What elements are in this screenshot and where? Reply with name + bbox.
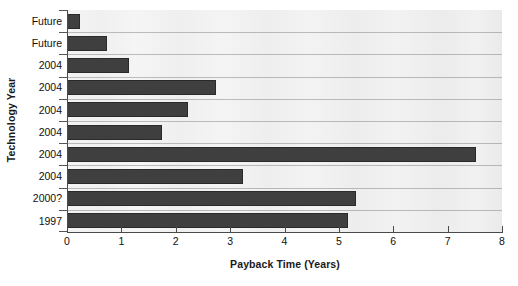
x-tick-label: 6 <box>390 235 396 248</box>
bar-row <box>67 121 502 143</box>
bar[interactable] <box>67 58 129 73</box>
x-axis-title: Payback Time (Years) <box>67 258 503 270</box>
y-tick <box>59 32 68 33</box>
y-tick <box>59 210 68 211</box>
bar-row <box>67 54 502 76</box>
bar-chart: Technology Year FutureFuture200420042004… <box>0 0 518 286</box>
bar[interactable] <box>67 191 356 206</box>
y-axis-title-text: Technology Year <box>5 78 17 163</box>
x-tick-label: 7 <box>445 235 451 248</box>
bar-row <box>67 165 502 187</box>
y-axis-ticks <box>59 10 68 232</box>
x-tick <box>285 226 286 232</box>
bar[interactable] <box>67 36 107 51</box>
bar-row <box>67 10 502 32</box>
y-tick <box>59 165 68 166</box>
x-tick-label: 3 <box>227 235 233 248</box>
x-axis-ticks <box>67 226 503 232</box>
bar[interactable] <box>67 102 188 117</box>
bar[interactable] <box>67 147 476 162</box>
bar[interactable] <box>67 125 162 140</box>
y-tick <box>59 54 68 55</box>
x-tick <box>448 226 449 232</box>
x-tick <box>339 226 340 232</box>
y-tick <box>59 10 68 11</box>
x-tick <box>67 226 68 232</box>
x-tick <box>176 226 177 232</box>
x-tick-label: 0 <box>64 235 70 248</box>
bar-row <box>67 32 502 54</box>
bar[interactable] <box>67 169 243 184</box>
bar[interactable] <box>67 80 216 95</box>
bar-row <box>67 143 502 165</box>
x-tick <box>393 226 394 232</box>
y-tick <box>59 188 68 189</box>
x-tick-label: 1 <box>118 235 124 248</box>
bar-row <box>67 188 502 210</box>
plot-area <box>67 10 502 232</box>
x-tick <box>230 226 231 232</box>
y-tick <box>59 143 68 144</box>
x-axis-tick-labels: 012345678 <box>67 235 503 251</box>
x-tick-label: 5 <box>336 235 342 248</box>
bars-layer <box>67 10 502 232</box>
x-tick-label: 4 <box>282 235 288 248</box>
x-tick <box>502 226 503 232</box>
y-tick <box>59 121 68 122</box>
y-tick <box>59 99 68 100</box>
y-tick <box>59 77 68 78</box>
x-axis-line <box>67 232 503 233</box>
x-tick-label: 8 <box>499 235 505 248</box>
x-tick <box>121 226 122 232</box>
x-tick-label: 2 <box>173 235 179 248</box>
bar-row <box>67 99 502 121</box>
bar-row <box>67 77 502 99</box>
y-axis-title: Technology Year <box>0 0 22 240</box>
bar[interactable] <box>67 14 80 29</box>
